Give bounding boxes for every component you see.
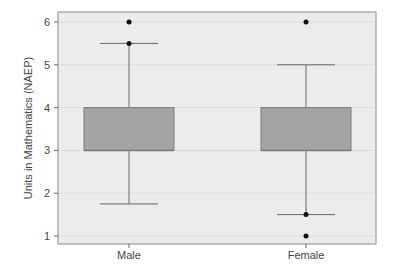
outlier-point — [127, 20, 132, 25]
outlier-point — [304, 212, 309, 217]
x-tick-label: Male — [117, 249, 141, 261]
iqr-box — [84, 108, 174, 151]
outlier-point — [127, 41, 132, 46]
y-tick-label: 5 — [44, 59, 50, 71]
outlier-point — [304, 20, 309, 25]
y-tick-label: 1 — [44, 230, 50, 242]
iqr-box — [261, 108, 351, 151]
y-tick-label: 2 — [44, 187, 50, 199]
y-tick-label: 4 — [44, 102, 50, 114]
outlier-point — [304, 234, 309, 239]
x-tick-label: Female — [288, 249, 325, 261]
y-tick-label: 6 — [44, 16, 50, 28]
box-plot: 123456 MaleFemale Units in Mathematics (… — [0, 0, 396, 275]
y-axis-ticks: 123456 — [44, 16, 58, 242]
x-axis-labels: MaleFemale — [117, 244, 324, 261]
y-tick-label: 3 — [44, 144, 50, 156]
y-axis-label: Units in Mathematics (NAEP) — [22, 57, 34, 199]
